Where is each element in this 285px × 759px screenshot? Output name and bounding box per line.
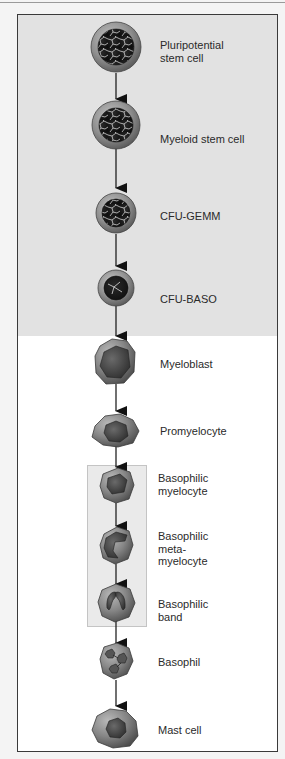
pluripotential-stem-cell-icon (91, 22, 141, 72)
cfu-gemm-cell-icon (96, 193, 136, 233)
label-line: Basophil (158, 656, 200, 669)
label-line: Basophilic (158, 598, 208, 611)
label-line: myelocyte (158, 485, 208, 498)
label-promyelocyte: Promyelocyte (160, 425, 227, 438)
label-myeloid-stem-cell: Myeloid stem cell (160, 133, 244, 146)
label-line: band (158, 611, 208, 624)
label-myeloblast: Myeloblast (160, 358, 213, 371)
basophilic-myelocyte-cell-icon (100, 468, 134, 503)
myeloid-stem-cell-icon (92, 101, 140, 149)
label-line: Mast cell (158, 724, 201, 737)
label-basophilic-metamyelocyte: Basophilic meta- myelocyte (158, 530, 208, 568)
basophil-cell-icon (100, 643, 133, 679)
promyelocyte-cell-icon (92, 414, 139, 447)
label-line: Pluripotential (160, 39, 224, 52)
basophilic-band-cell-icon (98, 584, 135, 622)
label-line: Basophilic (158, 472, 208, 485)
label-line: CFU-GEMM (160, 210, 221, 223)
lineage-diagram (0, 0, 285, 759)
label-pluripotential-stem-cell: Pluripotential stem cell (160, 39, 224, 64)
label-cfu-baso: CFU-BASO (160, 293, 217, 306)
basophilic-metamyelocyte-cell-icon (100, 527, 133, 564)
label-mast-cell: Mast cell (158, 724, 201, 737)
label-line: stem cell (160, 52, 224, 65)
label-line: Myeloblast (160, 358, 213, 371)
label-basophil: Basophil (158, 656, 200, 669)
label-basophilic-myelocyte: Basophilic myelocyte (158, 472, 208, 497)
mast-cell-icon (92, 709, 138, 748)
label-cfu-gemm: CFU-GEMM (160, 210, 221, 223)
label-line: Promyelocyte (160, 425, 227, 438)
label-line: CFU-BASO (160, 293, 217, 306)
label-basophilic-band: Basophilic band (158, 598, 208, 623)
cfu-baso-cell-icon (98, 270, 134, 306)
label-line: myelocyte (158, 555, 208, 568)
label-line: meta- (158, 543, 208, 556)
myeloblast-cell-icon (95, 339, 135, 384)
label-line: Myeloid stem cell (160, 133, 244, 146)
label-line: Basophilic (158, 530, 208, 543)
